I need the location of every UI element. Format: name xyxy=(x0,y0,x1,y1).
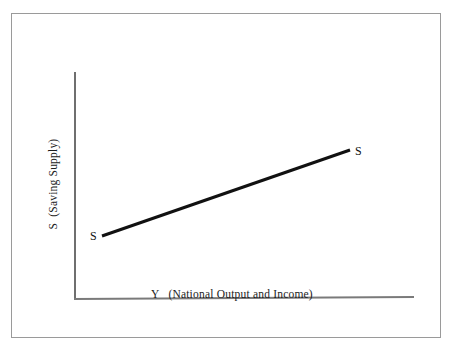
saving-supply-line xyxy=(102,150,350,236)
curve-label-right: S xyxy=(355,145,362,157)
figure-screenshot: Y (National Output and Income) S (Saving… xyxy=(0,0,459,355)
saving-supply-curve xyxy=(0,0,459,355)
curve-label-left: S xyxy=(90,230,97,242)
x-axis-title: Y (National Output and Income) xyxy=(62,288,402,300)
y-axis-title: S (Saving Supply) xyxy=(47,132,59,237)
